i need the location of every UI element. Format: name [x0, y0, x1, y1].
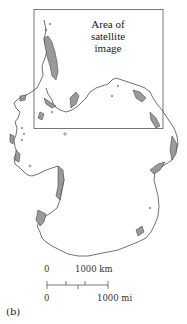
scale-km-end: 1000 km: [75, 264, 113, 274]
figure-label: (b): [6, 306, 20, 317]
scale-bar: [47, 281, 108, 289]
scale-mi-start: 0: [44, 293, 49, 303]
scale-km-start: 0: [44, 264, 49, 274]
shaded-regions: [10, 36, 177, 236]
area-label-line-2: satellite: [80, 30, 136, 42]
area-label-line-1: Area of: [80, 18, 136, 30]
satellite-area-label: Area of satellite image: [80, 18, 136, 54]
scale-mi-end: 1000 mi: [97, 293, 132, 303]
area-label-line-3: image: [80, 42, 136, 54]
